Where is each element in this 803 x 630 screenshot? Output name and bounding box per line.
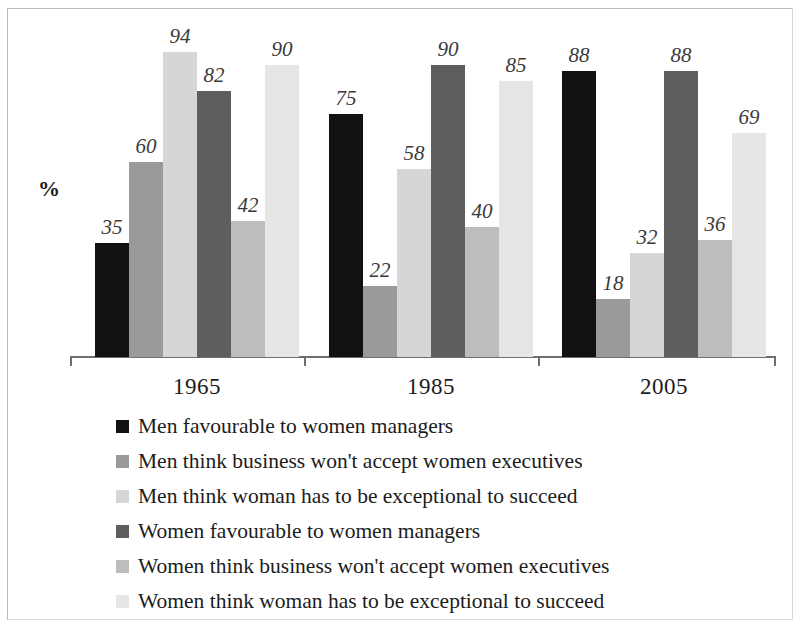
bar-column[interactable]: 88 (562, 0, 596, 357)
bar[interactable]: 90 (431, 65, 465, 357)
legend-item[interactable]: Men think business won't accept women ex… (116, 444, 776, 479)
bar-value-label: 90 (272, 39, 293, 60)
bar[interactable]: 36 (698, 240, 732, 357)
bar-value-label: 82 (204, 65, 225, 86)
bar-value-label: 32 (637, 227, 658, 248)
legend-swatch-icon (116, 455, 129, 468)
bar-value-label: 42 (238, 195, 259, 216)
bar[interactable]: 35 (95, 243, 129, 357)
x-axis-tick-2 (538, 357, 540, 366)
bar-value-label: 22 (370, 260, 391, 281)
group-label-2005: 2005 (562, 374, 766, 400)
bar-value-label: 88 (569, 45, 590, 66)
x-axis-tick-start (70, 357, 72, 366)
bar-column[interactable]: 36 (698, 0, 732, 357)
bar-value-label: 18 (603, 273, 624, 294)
bar-column[interactable]: 35 (95, 0, 129, 357)
legend-label: Women think woman has to be exceptional … (138, 591, 604, 613)
bar-column[interactable]: 42 (231, 0, 265, 357)
chart-legend: Men favourable to women managersMen thin… (116, 409, 776, 619)
legend-item[interactable]: Women favourable to women managers (116, 514, 776, 549)
bars: 752258904085 (329, 0, 533, 357)
bar-column[interactable]: 75 (329, 0, 363, 357)
bar[interactable]: 69 (732, 133, 766, 357)
legend-item[interactable]: Men think woman has to be exceptional to… (116, 479, 776, 514)
bar[interactable]: 88 (562, 71, 596, 357)
bar-value-label: 85 (506, 55, 527, 76)
bar-column[interactable]: 88 (664, 0, 698, 357)
bar-column[interactable]: 18 (596, 0, 630, 357)
legend-swatch-icon (116, 490, 129, 503)
bar[interactable]: 40 (465, 227, 499, 357)
bar-column[interactable]: 32 (630, 0, 664, 357)
bar-column[interactable]: 22 (363, 0, 397, 357)
bar-value-label: 75 (336, 88, 357, 109)
plot-area: % 356094824290752258904085881832883669 1… (0, 0, 803, 372)
x-axis-tick-end (774, 357, 776, 366)
bar-group: 356094824290 (95, 0, 299, 357)
x-axis-tick-1 (304, 357, 306, 366)
bar-column[interactable]: 82 (197, 0, 231, 357)
bar-value-label: 60 (136, 136, 157, 157)
bar-value-label: 94 (170, 26, 191, 47)
bar[interactable]: 88 (664, 71, 698, 357)
y-axis-unit-label: % (38, 176, 60, 202)
bar[interactable]: 58 (397, 169, 431, 357)
legend-swatch-icon (116, 560, 129, 573)
legend-label: Women favourable to women managers (138, 521, 480, 543)
legend-swatch-icon (116, 525, 129, 538)
bars: 881832883669 (562, 0, 766, 357)
legend-item[interactable]: Women think woman has to be exceptional … (116, 584, 776, 619)
bar[interactable]: 90 (265, 65, 299, 357)
bar[interactable]: 82 (197, 91, 231, 357)
legend-label: Men think business won't accept women ex… (138, 451, 583, 473)
bar-column[interactable]: 40 (465, 0, 499, 357)
chart-page: % 356094824290752258904085881832883669 1… (0, 0, 803, 630)
bar-value-label: 90 (438, 39, 459, 60)
bar-value-label: 69 (739, 107, 760, 128)
bar[interactable]: 18 (596, 299, 630, 357)
bars: 356094824290 (95, 0, 299, 357)
legend-item[interactable]: Men favourable to women managers (116, 409, 776, 444)
bar[interactable]: 75 (329, 114, 363, 357)
legend-label: Men think woman has to be exceptional to… (138, 486, 577, 508)
legend-item[interactable]: Women think business won't accept women … (116, 549, 776, 584)
bar-group: 752258904085 (329, 0, 533, 357)
group-label-1965: 1965 (95, 374, 299, 400)
bar[interactable]: 22 (363, 286, 397, 357)
legend-label: Women think business won't accept women … (138, 556, 609, 578)
bar-column[interactable]: 69 (732, 0, 766, 357)
bar-column[interactable]: 58 (397, 0, 431, 357)
bar-column[interactable]: 90 (431, 0, 465, 357)
bar[interactable]: 60 (129, 162, 163, 357)
legend-label: Men favourable to women managers (138, 416, 453, 438)
bar[interactable]: 94 (163, 52, 197, 357)
bar-column[interactable]: 85 (499, 0, 533, 357)
group-label-1985: 1985 (329, 374, 533, 400)
bar-column[interactable]: 94 (163, 0, 197, 357)
bar-column[interactable]: 60 (129, 0, 163, 357)
bar-value-label: 40 (472, 201, 493, 222)
bar-value-label: 35 (102, 217, 123, 238)
bar-value-label: 58 (404, 143, 425, 164)
bar[interactable]: 42 (231, 221, 265, 357)
legend-swatch-icon (116, 595, 129, 608)
bar-column[interactable]: 90 (265, 0, 299, 357)
bar-value-label: 88 (671, 45, 692, 66)
bar[interactable]: 32 (630, 253, 664, 357)
bar-value-label: 36 (705, 214, 726, 235)
bar-group: 881832883669 (562, 0, 766, 357)
bar[interactable]: 85 (499, 81, 533, 357)
legend-swatch-icon (116, 420, 129, 433)
